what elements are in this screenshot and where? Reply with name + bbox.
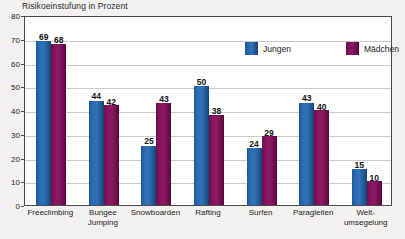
- bar-jungen: [299, 103, 314, 205]
- x-axis: FreeclimbingBungeeJumpingSnowboardenRaft…: [24, 208, 392, 239]
- y-axis-tick-mark: [21, 206, 24, 207]
- bar-maedchen: [156, 103, 171, 205]
- x-axis-category-label: Snowboarden: [131, 208, 180, 218]
- gridline: [25, 65, 391, 66]
- bar-value-label: 43: [159, 94, 168, 104]
- bar-maedchen: [367, 181, 382, 205]
- legend-label-jungen: Jungen: [263, 44, 291, 54]
- legend-swatch-jungen: [245, 42, 258, 55]
- legend-label-maedchen: Mädchen: [364, 44, 399, 54]
- y-axis-tick-label: 80: [11, 12, 20, 21]
- bar-jungen: [141, 146, 156, 205]
- bar-value-label: 42: [107, 97, 116, 107]
- bar-chart: Risikoeinstufung in Prozent 010203040506…: [0, 0, 405, 239]
- chart-legend: Jungen Mädchen: [245, 42, 399, 55]
- legend-swatch-maedchen: [346, 42, 359, 55]
- bar-value-label: 44: [92, 91, 101, 101]
- bar-value-label: 68: [54, 35, 63, 45]
- bar-maedchen: [209, 115, 224, 205]
- chart-title: Risikoeinstufung in Prozent: [22, 1, 128, 11]
- bar-jungen: [36, 41, 51, 205]
- bar-value-label: 10: [369, 173, 378, 183]
- y-axis-tick-label: 50: [11, 83, 20, 92]
- bar-value-label: 43: [302, 93, 311, 103]
- bar-maedchen: [104, 105, 119, 205]
- y-axis-tick-label: 30: [11, 130, 20, 139]
- bar-jungen: [89, 101, 104, 206]
- bar-value-label: 24: [249, 139, 258, 149]
- y-axis: 01020304050607080: [0, 16, 24, 206]
- bar-value-label: 38: [212, 106, 221, 116]
- bar-value-label: 50: [197, 77, 206, 87]
- bar-maedchen: [314, 110, 329, 205]
- x-axis-category-label: Welt-umsegelung: [344, 208, 388, 227]
- legend-entry-jungen: Jungen: [245, 42, 291, 55]
- x-axis-category-label: Rafting: [195, 208, 220, 218]
- y-axis-tick-label: 20: [11, 154, 20, 163]
- bar-maedchen: [262, 136, 277, 205]
- x-axis-category-label: Surfen: [249, 208, 273, 218]
- bar-value-label: 40: [317, 102, 326, 112]
- x-axis-category-label: Freeclimbing: [27, 208, 73, 218]
- bar-value-label: 69: [39, 32, 48, 42]
- x-axis-category-label: BungeeJumping: [88, 208, 118, 227]
- legend-entry-maedchen: Mädchen: [346, 42, 399, 55]
- y-axis-tick-label: 70: [11, 35, 20, 44]
- bar-value-label: 29: [264, 128, 273, 138]
- bar-jungen: [247, 148, 262, 205]
- y-axis-tick-label: 0: [16, 202, 20, 211]
- bar-value-label: 15: [354, 160, 363, 170]
- y-axis-tick-label: 60: [11, 59, 20, 68]
- y-axis-tick-label: 40: [11, 107, 20, 116]
- bar-jungen: [194, 86, 209, 205]
- bar-maedchen: [51, 44, 66, 206]
- x-axis-category-label: Paragleiten: [293, 208, 333, 218]
- bar-value-label: 25: [144, 136, 153, 146]
- bar-jungen: [352, 169, 367, 205]
- y-axis-tick-label: 10: [11, 178, 20, 187]
